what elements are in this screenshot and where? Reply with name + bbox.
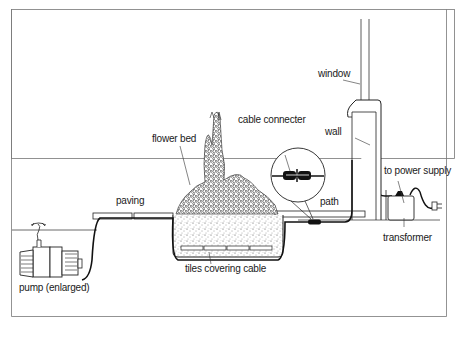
label-paving: paving <box>116 196 144 206</box>
transformer <box>388 188 432 220</box>
label-tiles-covering-cable: tiles covering cable <box>185 264 266 274</box>
label-cable-connecter: cable connecter <box>238 115 306 125</box>
window <box>361 19 369 100</box>
label-wall: wall <box>325 127 341 137</box>
label-pump: pump (enlarged) <box>19 283 89 293</box>
flower-bed-trench <box>173 215 283 257</box>
cable-connecter-magnifier <box>271 148 325 219</box>
frame-border <box>12 10 455 159</box>
label-path: path <box>320 197 339 207</box>
label-transformer: transformer <box>383 233 432 243</box>
pump <box>20 223 82 277</box>
flower-bed-plants <box>176 112 278 214</box>
power-plug-icon <box>432 202 442 210</box>
label-to-power-supply: to power supply <box>384 166 451 176</box>
cable-connecter-small <box>308 220 321 225</box>
label-flower-bed: flower bed <box>152 134 196 144</box>
label-window: window <box>318 69 350 79</box>
